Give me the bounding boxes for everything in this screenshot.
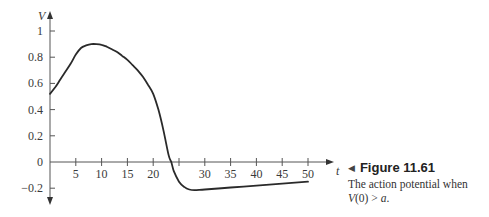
y-axis-label: V	[38, 9, 47, 23]
y-tick-label: 0.2	[28, 129, 43, 143]
y-axis-down-arrow-icon	[47, 197, 53, 205]
x-tick-label: 50	[302, 167, 314, 181]
y-tick-label: 1	[37, 24, 43, 38]
ticks: 51015203035404550−0.200.20.40.60.81	[21, 24, 314, 195]
caption-period: .	[386, 192, 389, 204]
y-tick-label: 0.4	[28, 103, 43, 117]
figure-description: The action potential when V(0) > a.	[348, 177, 488, 205]
x-tick-label: 15	[121, 167, 133, 181]
caption-line-2: (0) >	[355, 192, 381, 204]
figure-number: Figure 11.61	[360, 160, 435, 175]
y-tick-label: 0.6	[28, 76, 43, 90]
y-tick-label: 0	[37, 155, 43, 169]
axes: Vt	[38, 9, 340, 205]
x-axis-arrow-icon	[326, 159, 334, 165]
x-tick-label: 5	[73, 167, 79, 181]
voltage-curve	[50, 44, 308, 190]
x-tick-label: 40	[250, 167, 262, 181]
y-tick-label: 0.8	[28, 50, 43, 64]
y-axis-up-arrow-icon	[47, 11, 53, 19]
x-tick-label: 30	[199, 167, 211, 181]
figure-caption: ◀ Figure 11.61 The action potential when…	[348, 160, 488, 205]
caption-line-1: The action potential when	[348, 178, 468, 190]
x-tick-label: 35	[225, 167, 237, 181]
caption-var-v: V	[348, 192, 355, 204]
y-tick-label: −0.2	[21, 181, 43, 195]
figure-title: ◀ Figure 11.61	[348, 160, 488, 175]
x-tick-label: 45	[276, 167, 288, 181]
x-axis-label: t	[336, 164, 340, 178]
x-tick-label: 20	[147, 167, 159, 181]
x-tick-label: 10	[96, 167, 108, 181]
caption-marker-icon: ◀	[348, 163, 355, 173]
